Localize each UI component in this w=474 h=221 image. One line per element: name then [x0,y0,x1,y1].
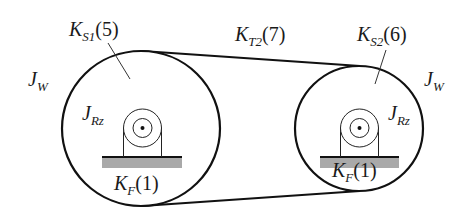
belt-drive-diagram: KS1(5) KT2(7) KS2(6) JW JW JRz JRz KF(1)… [0,0,474,221]
label-jw-right: JW [424,68,445,94]
label-jw-left: JW [28,68,49,94]
label-kt2: KT2(7) [234,23,285,49]
right-shaft-dot [358,126,362,130]
left-shaft-dot [141,126,145,130]
label-ks1: KS1(5) [68,18,119,44]
left-base-ground [102,157,182,168]
label-ks2: KS2(6) [356,23,407,49]
